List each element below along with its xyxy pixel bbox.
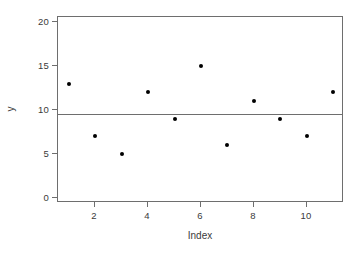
x-tick-mark (94, 202, 95, 207)
y-tick-label: 15 (38, 60, 49, 71)
data-point (93, 134, 97, 138)
data-point (67, 82, 71, 86)
x-tick-label: 10 (300, 210, 311, 221)
y-tick-label: 0 (44, 191, 49, 202)
x-tick-mark (147, 202, 148, 207)
x-tick-label: 4 (144, 210, 149, 221)
x-axis-title: Index (188, 230, 212, 241)
y-tick-label: 5 (44, 147, 49, 158)
y-tick-label: 20 (38, 16, 49, 27)
x-tick-mark (200, 202, 201, 207)
x-tick-label: 8 (250, 210, 255, 221)
data-point (252, 99, 256, 103)
data-point (173, 117, 177, 121)
y-axis-title: y (5, 107, 16, 112)
x-tick-mark (253, 202, 254, 207)
x-tick-label: 2 (91, 210, 96, 221)
x-tick-label: 6 (197, 210, 202, 221)
data-point (146, 90, 150, 94)
mean-reference-line (58, 114, 342, 115)
x-tick-mark (306, 202, 307, 207)
data-point (225, 143, 229, 147)
data-point (199, 64, 203, 68)
plot-area (58, 17, 342, 201)
data-point (305, 134, 309, 138)
scatter-plot-figure: y 05101520 Index 246810 (0, 0, 358, 256)
x-axis: Index 246810 (0, 202, 358, 256)
data-point (278, 117, 282, 121)
data-point (331, 90, 335, 94)
plot-frame (57, 16, 343, 202)
data-point (120, 152, 124, 156)
y-tick-label: 10 (38, 104, 49, 115)
